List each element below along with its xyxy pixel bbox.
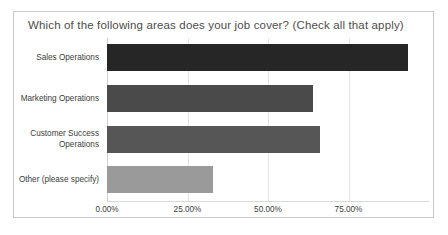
plot-area: Sales Operations Marketing Operations Cu…: [107, 38, 429, 201]
x-tick-label-50: 50.00%: [254, 205, 282, 214]
bar-row: Marketing Operations: [107, 79, 429, 120]
bar-row: Other (please specify): [107, 160, 429, 201]
bar-row: Customer Success Operations: [107, 120, 429, 161]
category-label-line: Operations: [59, 139, 99, 150]
x-tick-label-0: 0.00%: [95, 205, 118, 214]
category-label-line: Marketing Operations: [21, 93, 99, 104]
chart-card: Which of the following areas does your j…: [13, 11, 434, 218]
x-tick-label-75: 75.00%: [335, 205, 363, 214]
category-label: Customer Success Operations: [0, 126, 99, 153]
bar-sales-operations[interactable]: [107, 44, 408, 71]
chart-title: Which of the following areas does your j…: [28, 19, 404, 31]
x-tick-label-25: 25.00%: [174, 205, 202, 214]
x-axis-line: [107, 201, 429, 202]
bar-other-please-specify[interactable]: [107, 166, 213, 193]
category-label: Marketing Operations: [0, 85, 99, 112]
category-label-line: Other (please specify): [19, 174, 99, 185]
bar-chart: Sales Operations Marketing Operations Cu…: [14, 38, 433, 218]
bar-customer-success-operations[interactable]: [107, 126, 320, 153]
category-label: Other (please specify): [0, 166, 99, 193]
bar-row: Sales Operations: [107, 38, 429, 79]
bar-marketing-operations[interactable]: [107, 85, 313, 112]
category-label: Sales Operations: [0, 44, 99, 71]
category-label-line: Sales Operations: [36, 52, 99, 63]
category-label-line: Customer Success: [30, 128, 99, 139]
